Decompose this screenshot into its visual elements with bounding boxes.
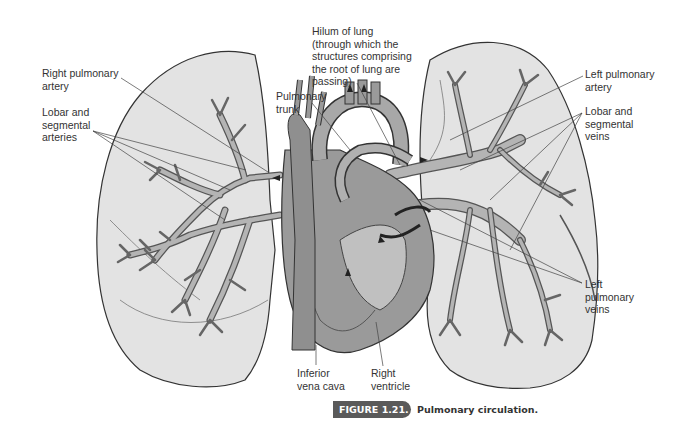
label-left-pulmonary-veins: Left pulmonary veins [585, 278, 634, 316]
label-right-pulmonary-artery: Right pulmonary artery [42, 67, 118, 92]
figure-caption: Pulmonary circulation. [417, 401, 538, 418]
label-inferior-vena-cava: Inferior vena cava [297, 367, 345, 392]
label-hilum-of-lung: Hilum of lung (through which the structu… [312, 25, 412, 88]
heart [272, 76, 434, 353]
figure-number-badge: FIGURE 1.21. [333, 401, 411, 418]
label-lobar-segmental-veins: Lobar and segmental veins [585, 105, 633, 143]
label-left-pulmonary-artery: Left pulmonary artery [585, 68, 654, 93]
label-lobar-segmental-arteries: Lobar and segmental arteries [42, 106, 90, 144]
label-right-ventricle: Right ventricle [371, 367, 410, 392]
label-pulmonary-trunk: Pulmonary trunk [276, 90, 326, 115]
